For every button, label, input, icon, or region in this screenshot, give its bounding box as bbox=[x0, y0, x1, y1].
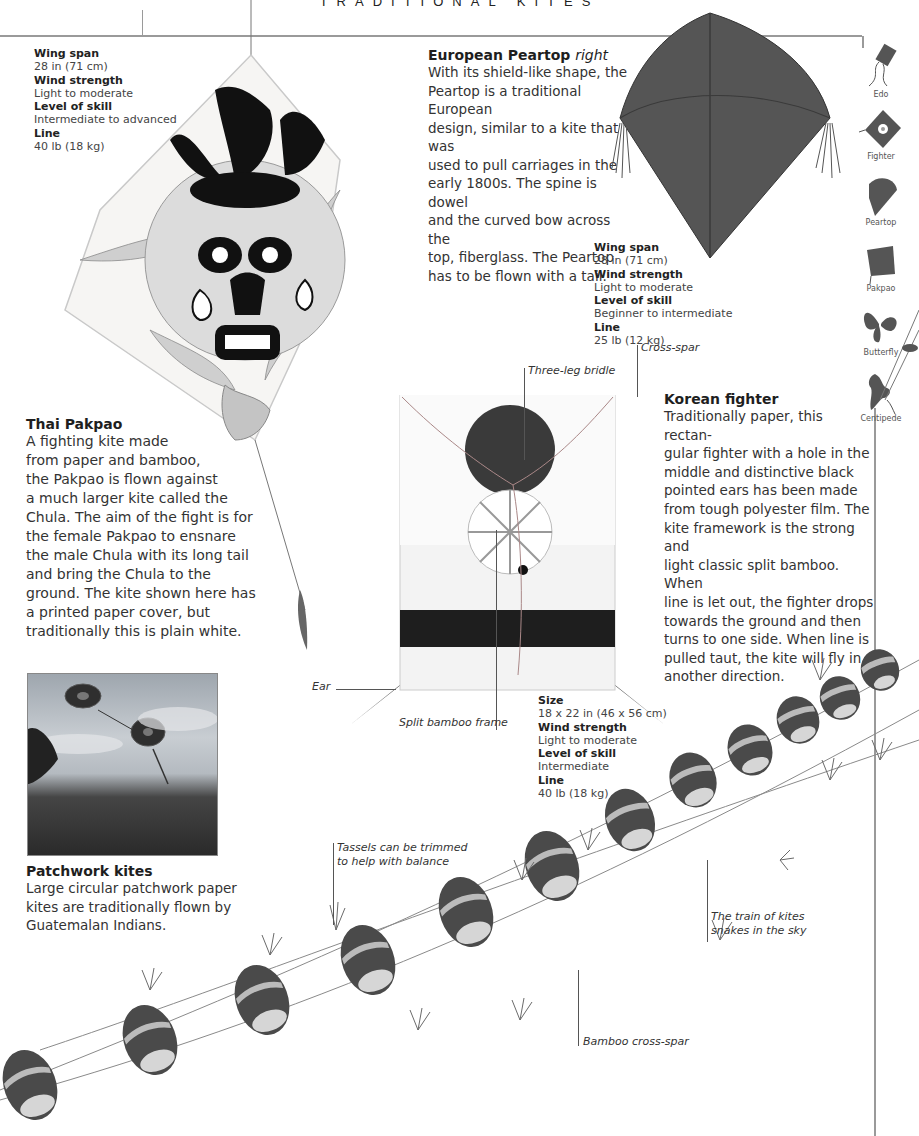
spec-key: Line bbox=[594, 321, 732, 334]
text-line: Traditionally paper, this rectan- bbox=[664, 407, 874, 444]
callout-line: Tassels can be trimmed bbox=[337, 841, 467, 855]
index-item-fighter: Fighter bbox=[843, 108, 919, 168]
index-item-pakpao: Pakpao bbox=[843, 240, 919, 300]
fighter-kite-icon bbox=[859, 108, 903, 152]
text-line: used to pull carriages in the bbox=[428, 156, 628, 175]
peartop-kite-icon bbox=[861, 174, 901, 218]
cross-spar-leader-line bbox=[637, 345, 638, 397]
text-line: towards the ground and then bbox=[664, 612, 874, 631]
text-line: design, similar to a kite that was bbox=[428, 119, 628, 156]
bamboo-cross-spar-callout: Bamboo cross-spar bbox=[583, 1035, 689, 1048]
index-label: Fighter bbox=[867, 152, 895, 161]
text-line: With its shield-like shape, the bbox=[428, 63, 628, 82]
text-line: pointed ears has been made bbox=[664, 481, 874, 500]
pakpao-kite-icon bbox=[861, 240, 901, 284]
train-leader-line bbox=[707, 860, 708, 942]
spec-value: Light to moderate bbox=[34, 87, 177, 100]
pakpao-specs: Wing span 28 in (71 cm) Wind strength Li… bbox=[34, 47, 177, 153]
tassels-leader-line bbox=[333, 843, 334, 925]
callout-line: to help with balance bbox=[337, 855, 467, 869]
three-leg-bridle-callout: Three-leg bridle bbox=[528, 364, 615, 377]
spec-key: Wing span bbox=[34, 47, 177, 60]
spec-value: 28 in (71 cm) bbox=[594, 254, 732, 267]
spec-value: Light to moderate bbox=[594, 281, 732, 294]
callout-line: snakes in the sky bbox=[711, 924, 807, 938]
peartop-kite-illustration bbox=[610, 8, 850, 268]
text-line: middle and distinctive black bbox=[664, 463, 874, 482]
train-callout: The train of kites snakes in the sky bbox=[711, 910, 807, 938]
spec-key: Wind strength bbox=[594, 268, 732, 281]
index-label: Pakpao bbox=[867, 284, 896, 293]
text-line: the male Chula with its long tail bbox=[26, 546, 296, 565]
peartop-title-suffix: right bbox=[575, 47, 608, 63]
text-line: Chula. The aim of the fight is for bbox=[26, 508, 296, 527]
cross-spar-callout: Cross-spar bbox=[641, 341, 699, 354]
text-line: gular fighter with a hole in the bbox=[664, 444, 874, 463]
cross-spar-train-leader-line bbox=[578, 970, 579, 1046]
spec-key: Line bbox=[34, 127, 177, 140]
korean-fighter-title: Korean fighter bbox=[664, 391, 874, 407]
spec-value: Beginner to intermediate bbox=[594, 307, 732, 320]
peartop-title-text: European Peartop bbox=[428, 47, 570, 63]
index-label: Edo bbox=[873, 90, 888, 99]
text-line: the female Pakpao to ensnare bbox=[26, 527, 296, 546]
spec-key: Level of skill bbox=[34, 100, 177, 113]
spec-value: Intermediate to advanced bbox=[34, 113, 177, 126]
spec-key: Level of skill bbox=[594, 294, 732, 307]
text-line: early 1800s. The spine is dowel bbox=[428, 174, 628, 211]
text-line: from tough polyester film. The bbox=[664, 500, 874, 519]
text-line: from paper and bamboo, bbox=[26, 451, 296, 470]
text-line: the Pakpao is flown against bbox=[26, 470, 296, 489]
spec-key: Wing span bbox=[594, 241, 732, 254]
text-line: kite framework is the strong and bbox=[664, 519, 874, 556]
text-line: A fighting kite made bbox=[26, 432, 296, 451]
text-line: ground. The kite shown here has bbox=[26, 584, 296, 603]
edo-kite-icon bbox=[861, 42, 901, 90]
text-line: Peartop is a traditional European bbox=[428, 82, 628, 119]
pakpao-section: Thai Pakpao A fighting kite made from pa… bbox=[26, 416, 296, 641]
callout-line: The train of kites bbox=[711, 910, 807, 924]
bridle-leader-line bbox=[524, 368, 525, 460]
spec-value: 40 lb (18 kg) bbox=[34, 140, 177, 153]
text-line: a much larger kite called the bbox=[26, 489, 296, 508]
spec-value: 28 in (71 cm) bbox=[34, 60, 177, 73]
index-item-peartop: Peartop bbox=[843, 174, 919, 234]
spec-key: Wind strength bbox=[34, 74, 177, 87]
peartop-specs: Wing span 28 in (71 cm) Wind strength Li… bbox=[594, 241, 732, 347]
text-line: light classic split bamboo. When bbox=[664, 556, 874, 593]
text-line: and bring the Chula to the bbox=[26, 565, 296, 584]
train-kites bbox=[0, 644, 905, 1128]
peartop-title: European Peartop right bbox=[428, 47, 628, 63]
text-line: a printed paper cover, but bbox=[26, 603, 296, 622]
pakpao-body: A fighting kite made from paper and bamb… bbox=[26, 432, 296, 641]
index-label: Peartop bbox=[866, 218, 897, 227]
tassels-callout: Tassels can be trimmed to help with bala… bbox=[337, 841, 467, 869]
text-line: line is let out, the fighter drops bbox=[664, 593, 874, 612]
index-item-edo: Edo bbox=[843, 42, 919, 102]
index-edge-strings bbox=[880, 300, 919, 410]
pakpao-title: Thai Pakpao bbox=[26, 416, 296, 432]
kite-train-illustration bbox=[0, 630, 919, 1136]
